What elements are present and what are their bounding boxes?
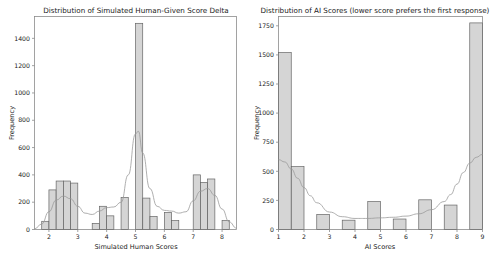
y-tick-label: 1000 bbox=[14, 89, 30, 96]
x-tick-label: 6 bbox=[162, 233, 166, 240]
x-tick-label: 2 bbox=[302, 233, 306, 240]
right-x-axis-label: AI Scores bbox=[365, 243, 396, 251]
x-tick-label: 7 bbox=[191, 233, 195, 240]
histogram-bar bbox=[291, 167, 304, 230]
left-x-axis-ticks: 2345678 bbox=[47, 230, 224, 241]
x-tick-label: 3 bbox=[328, 233, 332, 240]
x-tick-label: 6 bbox=[404, 233, 408, 240]
x-tick-label: 3 bbox=[76, 233, 80, 240]
left-y-axis-ticks: 0200400600800100012001400 bbox=[14, 35, 34, 233]
x-tick-label: 5 bbox=[379, 233, 383, 240]
chart-panel-right: Distribution of AI Scores (lower score p… bbox=[250, 0, 499, 263]
right-x-axis-ticks: 123456789 bbox=[277, 230, 485, 241]
histogram-bar bbox=[193, 175, 200, 230]
y-tick-label: 250 bbox=[262, 197, 274, 204]
right-y-axis-ticks: 02505007501000125015001750 bbox=[258, 22, 278, 233]
histogram-bar bbox=[107, 216, 114, 230]
x-tick-label: 8 bbox=[455, 233, 459, 240]
histogram-bar bbox=[49, 190, 56, 230]
histogram-bar bbox=[279, 53, 292, 230]
right-plot-frame bbox=[279, 17, 483, 230]
histogram-bar bbox=[470, 23, 483, 230]
y-tick-label: 1750 bbox=[258, 22, 274, 29]
y-tick-label: 1200 bbox=[14, 62, 30, 69]
histogram-bar bbox=[164, 212, 171, 229]
left-chart-svg: Distribution of Simulated Human-Given Sc… bbox=[0, 0, 250, 263]
y-tick-label: 200 bbox=[18, 198, 30, 205]
histogram-bar bbox=[92, 223, 99, 229]
histogram-bar bbox=[56, 181, 63, 229]
left-chart-title: Distribution of Simulated Human-Given Sc… bbox=[43, 6, 229, 15]
y-tick-label: 0 bbox=[26, 226, 30, 233]
histogram-bar bbox=[444, 205, 457, 229]
left-y-axis-label: Frequency bbox=[8, 106, 16, 140]
right-plot-area: 123456789 02505007501000125015001750 bbox=[258, 17, 484, 241]
histogram-bar bbox=[393, 219, 406, 229]
histogram-bar bbox=[419, 200, 432, 230]
right-chart-title: Distribution of AI Scores (lower score p… bbox=[261, 6, 490, 15]
histogram-bar bbox=[208, 179, 215, 230]
right-bars-group bbox=[279, 23, 483, 230]
right-chart-svg: Distribution of AI Scores (lower score p… bbox=[250, 0, 499, 263]
chart-panel-left: Distribution of Simulated Human-Given Sc… bbox=[0, 0, 250, 263]
figure-canvas: Distribution of Simulated Human-Given Sc… bbox=[0, 0, 499, 263]
histogram-bar bbox=[121, 197, 128, 229]
y-tick-label: 800 bbox=[18, 116, 30, 123]
y-tick-label: 600 bbox=[18, 144, 30, 151]
histogram-bar bbox=[172, 221, 179, 230]
histogram-bar bbox=[317, 214, 330, 229]
histogram-bar bbox=[368, 202, 381, 230]
histogram-bar bbox=[136, 23, 143, 229]
y-tick-label: 750 bbox=[262, 138, 274, 145]
y-tick-label: 400 bbox=[18, 171, 30, 178]
x-tick-label: 9 bbox=[481, 233, 485, 240]
y-tick-label: 1500 bbox=[258, 51, 274, 58]
x-tick-label: 4 bbox=[105, 233, 109, 240]
histogram-bar bbox=[143, 198, 150, 229]
y-tick-label: 1400 bbox=[14, 35, 30, 42]
x-tick-label: 5 bbox=[134, 233, 138, 240]
x-tick-label: 1 bbox=[277, 233, 281, 240]
y-tick-label: 500 bbox=[262, 168, 274, 175]
left-plot-area: 2345678 0200400600800100012001400 bbox=[14, 17, 236, 241]
histogram-bar bbox=[222, 221, 229, 230]
x-tick-label: 2 bbox=[47, 233, 51, 240]
y-tick-label: 1250 bbox=[258, 80, 274, 87]
x-tick-label: 8 bbox=[220, 233, 224, 240]
x-tick-label: 7 bbox=[430, 233, 434, 240]
y-tick-label: 0 bbox=[270, 226, 274, 233]
histogram-bar bbox=[63, 181, 70, 229]
histogram-bar bbox=[42, 221, 49, 229]
left-x-axis-label: Simulated Human Scores bbox=[94, 243, 178, 251]
histogram-bar bbox=[150, 217, 157, 230]
x-tick-label: 4 bbox=[353, 233, 357, 240]
histogram-bar bbox=[342, 220, 355, 229]
right-y-axis-label: Frequency bbox=[253, 106, 261, 140]
